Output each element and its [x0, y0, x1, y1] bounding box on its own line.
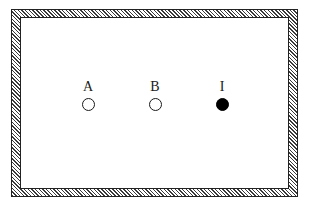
node-b-label: B: [145, 80, 165, 94]
node-i-label: I: [212, 80, 232, 94]
node-a-label: A: [78, 80, 98, 94]
open-circle-icon: [82, 98, 95, 111]
open-circle-icon: [149, 98, 162, 111]
filled-circle-icon: [216, 98, 229, 111]
